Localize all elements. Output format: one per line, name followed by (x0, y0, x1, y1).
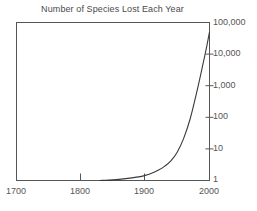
data-series-line (100, 32, 209, 180)
x-tick-label-1700: 1700 (0, 186, 36, 196)
y-tick-label-100: 100 (213, 111, 228, 121)
y-tick-label-10000: 10,000 (213, 48, 241, 58)
y-tick-label-1000: 1,000 (213, 80, 236, 90)
y-tick-label-10: 10 (213, 143, 223, 153)
chart-figure: Number of Species Lost Each Year 100,000… (0, 0, 257, 211)
y-tick-label-100000: 100,000 (213, 17, 246, 27)
y-tick-label-1: 1 (213, 174, 218, 184)
x-tick-label-2000: 2000 (189, 186, 229, 196)
plot-area (0, 0, 257, 211)
x-tick-label-1900: 1900 (124, 186, 164, 196)
x-tick-label-1800: 1800 (60, 186, 100, 196)
plot-frame (17, 23, 210, 181)
